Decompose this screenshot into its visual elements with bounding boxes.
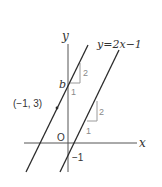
origin-label: O — [57, 132, 65, 143]
slope-triangle-2 — [87, 101, 97, 121]
given-line — [60, 50, 119, 172]
equation-label: y=2x−1 — [96, 38, 142, 51]
y-axis-label: y — [61, 29, 69, 43]
triangle-1-run-label: 1 — [71, 87, 76, 97]
y-intercept-label: −1 — [72, 152, 84, 163]
triangle-2-rise-label: 2 — [99, 107, 104, 117]
triangle-2-run-label: 1 — [86, 126, 91, 136]
b-intercept-label: b — [59, 78, 66, 91]
triangle-1-rise-label: 2 — [83, 68, 88, 78]
point-label: (−1, 3) — [13, 98, 42, 109]
x-axis-label: x — [139, 136, 146, 150]
point-marker — [56, 107, 59, 110]
coordinate-diagram: y x O y=2x−1 −1 b (−1, 3) 2 1 2 1 — [0, 0, 162, 187]
